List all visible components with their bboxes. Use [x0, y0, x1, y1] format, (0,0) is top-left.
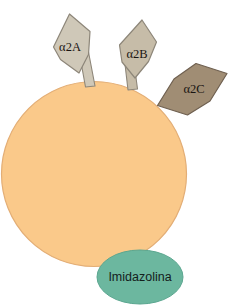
- receptor-a2c-label: α2C: [183, 82, 204, 96]
- diagram-canvas: α2A α2B α2C Imidazolina: [0, 0, 228, 307]
- imidazoline-site[interactable]: Imidazolina: [97, 250, 183, 304]
- receptor-diagram: α2A α2B α2C Imidazolina: [0, 0, 228, 307]
- receptor-a2a[interactable]: α2A: [54, 14, 96, 87]
- receptor-a2b-label: α2B: [126, 47, 147, 61]
- receptor-a2a-label: α2A: [59, 40, 81, 54]
- receptor-a2b[interactable]: α2B: [120, 20, 157, 90]
- imidazoline-label: Imidazolina: [108, 270, 171, 284]
- receptor-a2c[interactable]: α2C: [158, 64, 228, 116]
- cell-body-circle: [2, 82, 187, 267]
